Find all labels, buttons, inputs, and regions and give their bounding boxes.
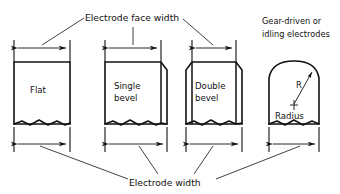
electrode-face-width-label: Electrode face width — [85, 12, 179, 23]
diagram-canvas: Electrode face width Gear-driven or idli… — [0, 0, 340, 194]
gear-driven-note-line1: Gear-driven or — [262, 16, 322, 26]
double-bevel-label-line1: Double — [195, 81, 225, 91]
single-bevel-label-line1: Single — [114, 81, 140, 91]
radius-label: Radius — [275, 111, 304, 121]
double-bevel-label-line2: bevel — [195, 93, 219, 103]
electrode-width-label: Electrode width — [129, 177, 201, 188]
gear-driven-note-line2: idling electrodes — [262, 29, 330, 39]
radius-symbol-label: R — [296, 80, 302, 90]
single-bevel-label-line2: bevel — [114, 93, 138, 103]
electrode-face-types-diagram: Electrode face width Gear-driven or idli… — [0, 0, 340, 194]
flat-label: Flat — [30, 85, 47, 95]
